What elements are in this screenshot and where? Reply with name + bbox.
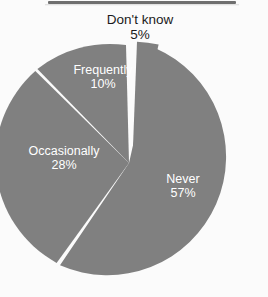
pie-label-never: Never 57% [143,172,223,200]
pie-label-dont-know-value: 5% [85,27,195,42]
pie-label-dont-know: Don't know 5% [85,12,195,42]
pie-label-occasionally-name: Occasionally [12,144,116,158]
pie-label-never-value: 57% [143,186,223,200]
pie-label-dont-know-name: Don't know [85,12,195,27]
pie-chart-figure: Don't know 5% Frequently 10% Occasionall… [0,0,268,297]
pie-label-never-name: Never [143,172,223,186]
pie-label-frequently-value: 10% [57,77,149,91]
pie-label-occasionally: Occasionally 28% [12,144,116,172]
pie-label-occasionally-value: 28% [12,158,116,172]
pie-label-frequently: Frequently 10% [57,63,149,91]
pie-label-frequently-name: Frequently [57,63,149,77]
